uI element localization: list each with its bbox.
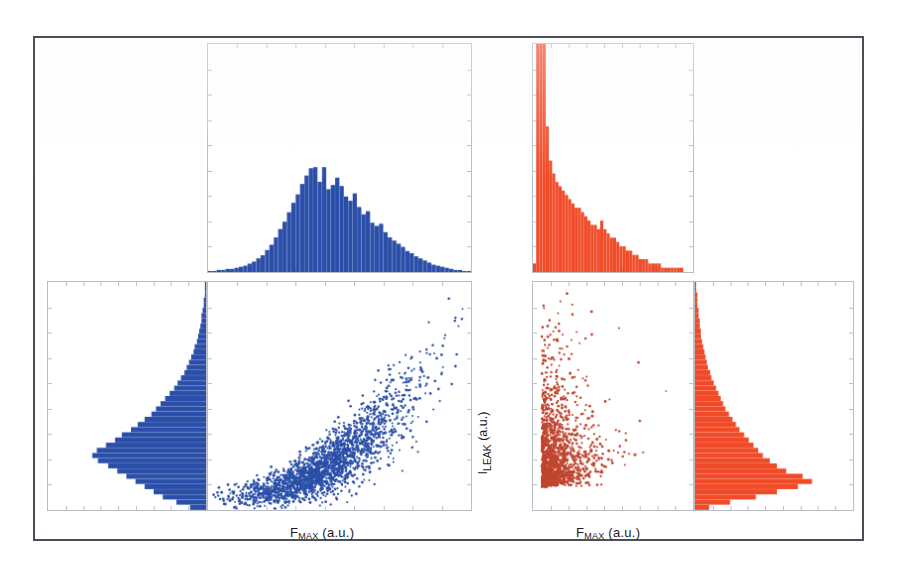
x-axis-label-right: FMAX (a.u.) — [576, 525, 640, 541]
y-axis-label-sub: LEAK — [482, 444, 493, 471]
figure-root: FMAX (a.u.) FMAX (a.u.) ILEAK (a.u.) — [0, 0, 898, 584]
right-top-histogram-canvas — [533, 44, 693, 272]
right-side-histogram-canvas — [695, 282, 853, 510]
y-axis-label-main: I — [476, 471, 490, 474]
x-axis-label-right-unit: (a.u.) — [604, 525, 640, 540]
x-axis-label-right-main: F — [576, 525, 584, 540]
x-axis-label-left: FMAX (a.u.) — [290, 525, 354, 541]
y-axis-label-leak: ILEAK (a.u.) — [476, 248, 492, 378]
y-axis-label-unit: (a.u.) — [476, 412, 490, 445]
x-axis-label-left-unit: (a.u.) — [318, 525, 354, 540]
x-axis-label-left-sub: MAX — [298, 531, 318, 541]
left-side-marginal-histogram-panel — [47, 281, 207, 511]
left-scatter-canvas — [208, 282, 471, 510]
right-side-marginal-histogram-panel — [694, 281, 854, 511]
right-scatter-panel — [532, 281, 694, 511]
x-axis-label-left-main: F — [290, 525, 298, 540]
left-top-histogram-canvas — [208, 44, 471, 272]
right-top-marginal-histogram-panel — [532, 43, 694, 273]
x-axis-label-right-sub: MAX — [584, 531, 604, 541]
right-scatter-canvas — [533, 282, 693, 510]
left-scatter-panel — [207, 281, 472, 511]
left-side-histogram-canvas — [48, 282, 206, 510]
left-top-marginal-histogram-panel — [207, 43, 472, 273]
figure-outer-frame: FMAX (a.u.) FMAX (a.u.) ILEAK (a.u.) — [33, 36, 864, 541]
